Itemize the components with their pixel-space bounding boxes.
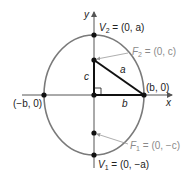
- point-origin: [91, 92, 96, 97]
- side-a-label: a: [120, 64, 126, 75]
- point-f2: [91, 57, 96, 62]
- ellipse-foci-diagram: y x V2 = (0, a) V1 = (0, −a) F2 = (0, c)…: [0, 0, 188, 180]
- x-axis-label: x: [165, 97, 172, 108]
- point-right-vertex: [141, 92, 146, 97]
- v2-label: V2 = (0, a): [99, 22, 144, 34]
- side-b-label: b: [122, 98, 128, 109]
- side-a: [94, 60, 144, 95]
- y-axis-label: y: [83, 9, 90, 20]
- f1-leader: [97, 134, 128, 144]
- f1-label: F1 = (0, −c): [130, 140, 180, 152]
- f2-label: F2 = (0, c): [132, 46, 176, 58]
- left-vertex-label: (−b, 0): [13, 98, 42, 109]
- v1-label: V1 = (0, −a): [98, 159, 149, 171]
- point-f1: [91, 130, 96, 135]
- point-left-vertex: [41, 92, 46, 97]
- side-c-label: c: [84, 71, 89, 82]
- point-v2: [91, 32, 96, 37]
- f2-leader: [97, 53, 128, 59]
- right-vertex-label: (b, 0): [146, 82, 169, 93]
- point-v1: [91, 152, 96, 157]
